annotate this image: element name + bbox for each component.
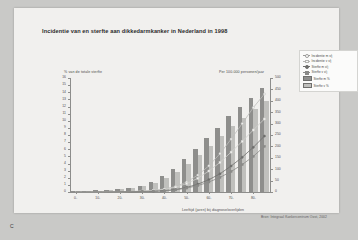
line-marker (163, 190, 165, 192)
right-tick (271, 89, 273, 90)
right-tick-label: 350 (275, 111, 291, 114)
legend-line-icon (303, 71, 310, 74)
line-marker (252, 129, 254, 131)
right-tick (271, 146, 273, 147)
slide-corner-label: C (10, 223, 14, 229)
line-marker (230, 138, 232, 140)
x-tick (187, 192, 188, 194)
legend-item-label: Incidentie m v/j (312, 54, 333, 58)
x-tick-label: 50- (179, 197, 195, 200)
line-marker (230, 165, 232, 167)
legend-item-label: Sterfte m % (314, 77, 330, 81)
line-marker (219, 176, 221, 178)
line-marker (241, 156, 243, 158)
x-tick-label: 30- (134, 197, 150, 200)
right-tick-label: 300 (275, 122, 291, 125)
slide-panel: Incidentie van en sterfte aan dikkedarmk… (14, 8, 339, 213)
right-tick (271, 181, 273, 182)
x-tick (209, 192, 210, 194)
plot-area (70, 78, 270, 192)
right-axis-unit-label: Per 100.000 personen/jaar (219, 70, 264, 74)
line-marker (252, 155, 254, 157)
line-marker (197, 177, 199, 179)
right-tick-label: 50 (275, 179, 291, 182)
right-tick-label: 150 (275, 156, 291, 159)
line-marker (141, 191, 143, 193)
chart-title: Incidentie van en sterfte aan dikkedarmk… (42, 27, 242, 36)
legend-item-label: Sterfte v v/j (312, 70, 328, 74)
right-tick (271, 101, 273, 102)
line-marker (263, 93, 265, 95)
line-marker (252, 146, 254, 148)
source-note: Bron: Integraal Kankercentrum Oost, 2002 (261, 215, 327, 219)
legend-swatch-icon (303, 83, 312, 88)
x-tick-label: 0- (68, 197, 84, 200)
line-path (76, 146, 265, 192)
legend-item-label: Sterfte m v/j (312, 65, 329, 69)
line-path (76, 119, 265, 192)
line-marker (252, 107, 254, 109)
legend-item: Incidentie v v/j (303, 59, 355, 63)
line-marker (208, 170, 210, 172)
line-marker (197, 174, 199, 176)
left-tick-label: 1 (52, 183, 66, 186)
left-tick-label: 10 (52, 119, 66, 122)
x-tick-label: 80- (245, 197, 261, 200)
right-tick-label: 0 (275, 190, 291, 193)
x-tick (120, 192, 121, 194)
right-tick-label: 450 (275, 88, 291, 91)
line-marker (208, 181, 210, 183)
x-axis-title: Leeftijd (jaren) bij diagnose/overlijden (182, 208, 244, 212)
line-marker (241, 164, 243, 166)
legend-item-label: Incidentie v v/j (312, 59, 332, 63)
left-tick-label: 12 (52, 105, 66, 108)
right-tick (271, 124, 273, 125)
line-marker (175, 189, 177, 191)
line-marker (230, 151, 232, 153)
left-tick-label: 0 (52, 190, 66, 193)
left-axis-unit-label: % van de totale sterfte (64, 70, 102, 74)
line-marker (208, 179, 210, 181)
right-tick-label: 400 (275, 99, 291, 102)
right-tick (271, 158, 273, 159)
x-tick-label: 70- (223, 197, 239, 200)
line-marker (230, 171, 232, 173)
line-marker (241, 123, 243, 125)
line-marker (208, 165, 210, 167)
line-marker (152, 190, 154, 192)
x-tick (231, 192, 232, 194)
legend-item: Incidentie m v/j (303, 54, 355, 58)
right-tick (271, 78, 273, 79)
right-tick (271, 135, 273, 136)
left-tick-label: 4 (52, 162, 66, 165)
right-tick-label: 500 (275, 76, 291, 79)
legend-item: Sterfte v v/j (303, 70, 355, 74)
legend-swatch-icon (303, 76, 312, 81)
legend-item: Sterfte v % (303, 83, 355, 88)
line-series-group (70, 78, 270, 192)
legend-item-label: Sterfte v % (314, 84, 329, 88)
right-tick-label: 200 (275, 145, 291, 148)
right-tick (271, 112, 273, 113)
line-marker (241, 140, 243, 142)
legend-line-icon (303, 54, 310, 57)
legend-item: Sterfte m v/j (303, 65, 355, 69)
right-tick-label: 100 (275, 168, 291, 171)
line-path (76, 94, 265, 192)
legend-line-icon (303, 65, 310, 68)
left-tick-label: 3 (52, 169, 66, 172)
left-tick-label: 16 (52, 76, 66, 79)
line-marker (197, 185, 199, 187)
line-marker (263, 118, 265, 120)
right-tick (271, 192, 273, 193)
right-tick (271, 169, 273, 170)
line-marker (263, 135, 265, 137)
x-tick-label: 20- (112, 197, 128, 200)
left-tick-label: 6 (52, 148, 66, 151)
chart-legend: Incidentie m v/jIncidentie v v/jSterfte … (299, 50, 358, 92)
legend-line-icon (303, 60, 310, 63)
line-marker (219, 153, 221, 155)
line-marker (186, 187, 188, 189)
left-tick-label: 8 (52, 133, 66, 136)
